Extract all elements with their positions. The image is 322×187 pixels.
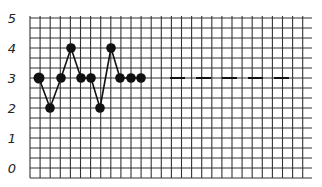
grid <box>30 16 312 178</box>
y-tick-label: 3 <box>8 71 16 86</box>
data-point-marker <box>86 73 96 83</box>
y-tick-label: 4 <box>8 41 16 56</box>
data-point-marker <box>136 73 146 83</box>
data-point-marker <box>115 73 125 83</box>
y-tick-label: 0 <box>8 161 16 176</box>
data-point-marker <box>66 43 76 53</box>
data-point-marker <box>106 43 116 53</box>
data-point-marker <box>76 73 86 83</box>
y-tick-label: 1 <box>8 131 16 146</box>
data-point-marker <box>95 103 105 113</box>
data-point-marker <box>56 73 66 83</box>
y-tick-label: 2 <box>8 101 16 116</box>
y-axis-labels: 012345 <box>8 11 16 176</box>
data-point-marker <box>126 73 136 83</box>
line-chart: 012345 <box>0 0 322 187</box>
data-point-marker <box>34 73 45 84</box>
data-point-marker <box>45 103 55 113</box>
y-tick-label: 5 <box>8 11 16 26</box>
